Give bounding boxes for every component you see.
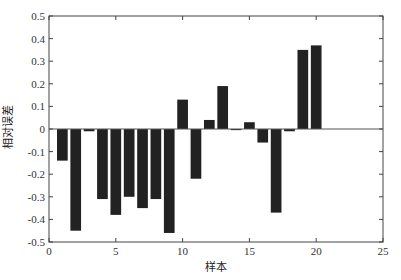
bar-sample-5 xyxy=(110,129,121,215)
bar-sample-2 xyxy=(70,129,81,231)
x-tick-label: 20 xyxy=(311,245,323,257)
y-tick-label: -0.1 xyxy=(28,146,45,158)
y-tick-label: -0.5 xyxy=(28,236,46,248)
bar-sample-10 xyxy=(177,100,188,129)
y-tick-label: 0.5 xyxy=(31,10,45,22)
bar-sample-12 xyxy=(204,120,215,129)
y-tick-label: 0.3 xyxy=(31,55,45,67)
x-tick-label: 15 xyxy=(244,245,256,257)
y-axis-title: 相对误差 xyxy=(1,105,15,149)
y-tick-label: 0 xyxy=(40,123,46,135)
bar-sample-11 xyxy=(191,129,202,179)
bars-group xyxy=(57,45,322,233)
bar-sample-20 xyxy=(311,45,322,129)
bar-sample-7 xyxy=(137,129,148,208)
y-tick-label: 0.1 xyxy=(31,100,45,112)
bar-sample-17 xyxy=(271,129,282,213)
y-tick-label: -0.3 xyxy=(28,191,46,203)
bar-chart: -0.5-0.4-0.3-0.2-0.100.10.20.30.40.5 051… xyxy=(0,0,401,280)
x-tick-label: 10 xyxy=(177,245,189,257)
y-tick-label: 0.2 xyxy=(31,78,45,90)
x-tick-label: 0 xyxy=(46,245,52,257)
y-tick-label: -0.4 xyxy=(28,213,46,225)
y-tick-label: -0.2 xyxy=(28,168,45,180)
x-tick-label: 25 xyxy=(378,245,390,257)
bar-sample-4 xyxy=(97,129,108,199)
bar-sample-1 xyxy=(57,129,68,161)
bar-sample-13 xyxy=(217,86,228,129)
bar-sample-19 xyxy=(297,50,308,129)
bar-sample-16 xyxy=(257,129,268,143)
bar-sample-6 xyxy=(124,129,135,197)
x-axis-title: 样本 xyxy=(205,260,227,274)
bar-sample-15 xyxy=(244,122,255,129)
bar-sample-8 xyxy=(151,129,162,199)
bar-sample-9 xyxy=(164,129,175,233)
x-tick-label: 5 xyxy=(113,245,119,257)
y-tick-label: 0.4 xyxy=(31,33,45,45)
